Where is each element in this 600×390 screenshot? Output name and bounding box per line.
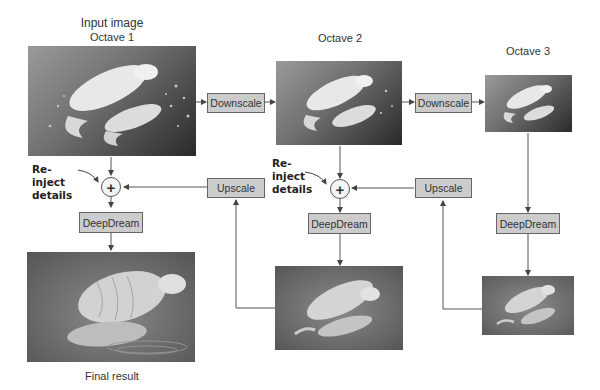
deepdream-dolphins-icon [482,276,574,335]
upscale-1-box: Upscale [207,178,265,198]
downscale-1-box: Downscale [207,93,265,113]
add-operator-1: + [101,177,121,197]
octave-2-label: Octave 2 [300,32,380,44]
reinject-details-label-2: Re-inject details [272,157,322,196]
downscale-2-box: Downscale [415,93,472,113]
final-result-image [27,252,195,362]
deepdream-1-box: DeepDream [79,212,143,233]
add-operator-2: + [330,179,350,199]
upscale-2-box: Upscale [415,178,472,198]
octave-3-label: Octave 3 [490,45,566,57]
octave-1-label: Octave 1 [70,31,154,43]
final-result-label: Final result [70,370,154,382]
dolphins-icon [485,75,572,132]
input-image-label: Input image [70,16,154,30]
dolphins-icon [276,61,402,145]
octave-3-input-image [485,75,572,132]
octave-2-input-image [276,61,402,145]
octave-3-dreamed-image [482,276,574,335]
reinject-details-label-1: Re-inject details [32,163,82,202]
deepdream-2-box: DeepDream [308,213,371,234]
octave-1-input-image [28,46,196,156]
deepdream-3-box: DeepDream [496,213,560,234]
dolphins-icon [28,46,196,156]
octave-2-dreamed-image [275,266,403,350]
deepdream-dolphins-icon [275,266,403,350]
deepdream-creature-icon [27,252,195,362]
